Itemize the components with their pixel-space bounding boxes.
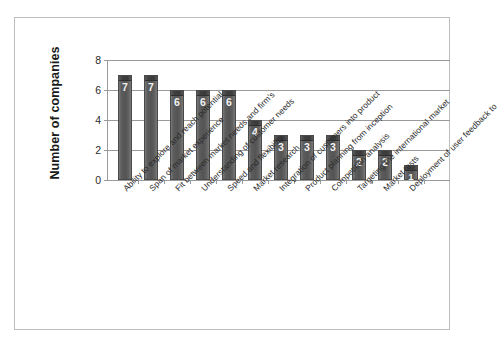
figure-frame: Number of companies 02468 776664333221 A… xyxy=(14,17,450,330)
bar-value-label: 6 xyxy=(171,97,183,108)
y-axis-title: Number of companies xyxy=(48,43,62,183)
y-axis-tick-label: 0 xyxy=(95,174,101,186)
y-axis-tick-mark xyxy=(104,180,107,181)
y-axis-tick-label: 8 xyxy=(95,54,101,66)
x-axis-category-labels: Ability to explore and reach potentialSp… xyxy=(107,184,467,324)
y-axis-tick-label: 6 xyxy=(95,84,101,96)
y-axis-tick-label: 4 xyxy=(95,114,101,126)
bar-value-label: 6 xyxy=(223,97,235,108)
bar-slot: 7 xyxy=(112,60,138,180)
y-axis-tick-label: 2 xyxy=(95,144,101,156)
bar-value-label: 7 xyxy=(145,82,157,93)
bar[interactable]: 7 xyxy=(118,75,132,180)
bar-value-label: 7 xyxy=(119,82,131,93)
